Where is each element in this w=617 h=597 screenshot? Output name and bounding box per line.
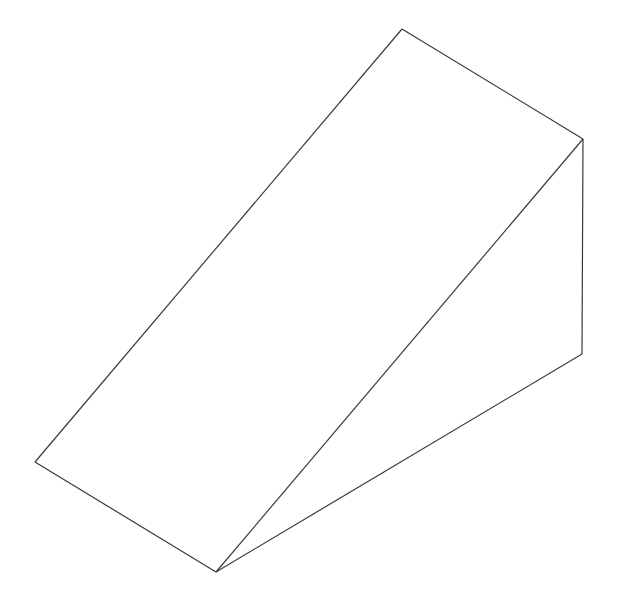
edge-top-righttop <box>402 29 583 139</box>
edge-bottom-left <box>35 462 216 572</box>
edge-bottom-righttop <box>216 139 583 572</box>
edge-left-top <box>35 29 402 462</box>
edge-righttop-rightbottom <box>582 139 583 354</box>
edge-rightbottom-bottom <box>216 354 582 572</box>
wedge-diagram <box>0 0 617 597</box>
